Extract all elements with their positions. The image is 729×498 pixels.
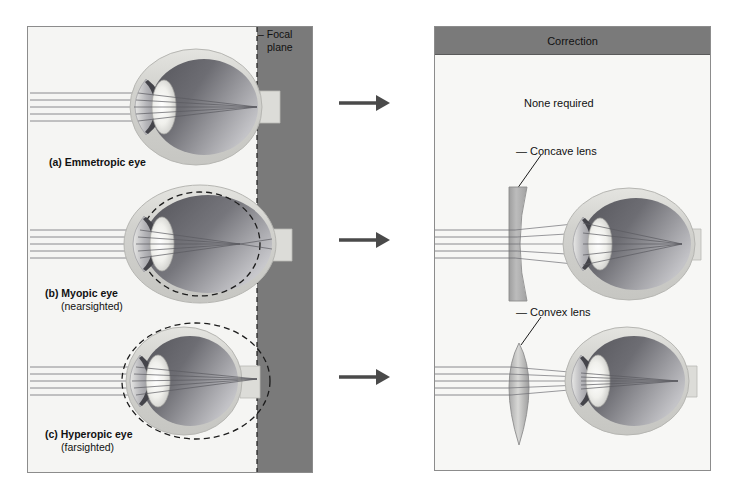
right-panel-graphic — [435, 27, 710, 470]
right-panel — [434, 26, 711, 471]
left-panel — [27, 26, 313, 473]
myopic-eye-diagram — [30, 185, 292, 303]
label-hyperopic-eye: (c) Hyperopic eye (farsighted) — [45, 428, 133, 454]
parallel-light-rays-correction-c — [435, 367, 511, 395]
label-a-text: Emmetropic eye — [65, 156, 146, 168]
hyperopia-correction-diagram — [435, 317, 697, 445]
left-panel-graphic — [28, 27, 312, 472]
focal-plane-label-line1: Focal — [267, 28, 293, 40]
parallel-light-rays-correction-b — [435, 230, 518, 258]
label-b-text: Myopic eye — [61, 287, 118, 299]
optic-nerve-a — [260, 91, 280, 123]
label-a-marker: (a) — [49, 156, 62, 168]
label-c-sub: (farsighted) — [45, 441, 133, 454]
arrow-emmetropic-to-correction — [338, 92, 392, 114]
focal-plane-label-line2: plane — [258, 41, 293, 53]
convex-lens-label: — Convex lens — [516, 306, 591, 320]
eye-refraction-figure: – Focal plane (a) Emmetropic eye (b) Myo… — [0, 0, 729, 498]
label-b-marker: (b) — [45, 287, 58, 299]
convex-lens-label-text: Convex lens — [530, 306, 591, 318]
convex-lens-leader-dash: — — [516, 306, 530, 318]
arrow-myopic-to-correction — [338, 229, 392, 251]
hyperopic-eye-diagram — [30, 323, 270, 439]
concave-lens-label: — Concave lens — [516, 145, 597, 159]
correction-header-title: Correction — [435, 27, 710, 54]
label-b-sub: (nearsighted) — [45, 300, 123, 313]
label-myopic-eye: (b) Myopic eye (nearsighted) — [45, 287, 123, 313]
concave-lens-leader-line — [517, 155, 541, 189]
none-required-label: None required — [524, 97, 594, 111]
emmetropic-eye-diagram — [30, 49, 280, 165]
label-emmetropic-eye: (a) Emmetropic eye — [49, 156, 146, 169]
correction-header-band: Correction — [435, 27, 710, 55]
focal-plane-leader: – — [258, 28, 267, 40]
focal-plane-label: – Focal plane — [258, 28, 293, 53]
concave-lens-leader-dash: — — [516, 145, 530, 157]
label-c-marker: (c) — [45, 428, 58, 440]
myopia-correction-diagram — [435, 155, 701, 301]
optic-nerve-c — [240, 366, 260, 398]
label-c-text: Hyperopic eye — [61, 428, 133, 440]
concave-lens-label-text: Concave lens — [530, 145, 597, 157]
parallel-light-rays-c — [30, 367, 136, 395]
convex-lens-leader-line — [521, 317, 541, 345]
arrow-hyperopic-to-correction — [338, 366, 392, 388]
parallel-light-rays-a — [30, 93, 138, 121]
